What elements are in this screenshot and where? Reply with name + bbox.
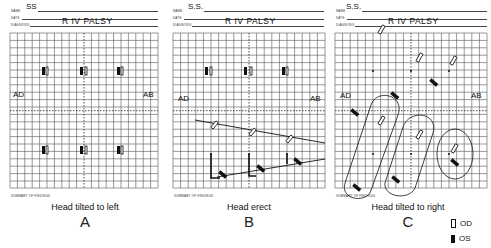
patient-name: S.S. bbox=[188, 2, 203, 11]
ab-label: AB bbox=[310, 94, 321, 103]
diagnosis-label: DIAGNOSIS bbox=[173, 23, 191, 27]
diagnosis-value: R IV PALSY bbox=[225, 16, 276, 26]
panel-c: NAME S.S. DATE DIAGNOSIS R IV PALSY bbox=[325, 0, 491, 248]
ad-label: AD bbox=[340, 91, 351, 100]
os-marks-b bbox=[218, 157, 302, 178]
panel-letter-a: A bbox=[10, 213, 160, 230]
marks-upper-b bbox=[205, 67, 288, 75]
panel-a: NAME SS DATE DIAGNOSIS R IV PALSY AD bbox=[0, 0, 165, 248]
patient-name: S.S. bbox=[346, 2, 361, 11]
legend-od-label: OD bbox=[460, 219, 472, 228]
diagnosis-label: DIAGNOSIS bbox=[336, 23, 354, 27]
diagnosis-line bbox=[355, 26, 487, 27]
od-swatch-icon bbox=[451, 219, 456, 228]
hess-grid-a bbox=[10, 33, 160, 189]
summary-label: SUMMARY OF FINDINGS bbox=[174, 194, 213, 198]
os-swatch-icon bbox=[451, 235, 455, 243]
od-marks-b bbox=[211, 121, 293, 143]
name-label: NAME bbox=[11, 9, 20, 13]
od-marks-c bbox=[378, 25, 458, 153]
ad-label: AD bbox=[178, 94, 189, 103]
date-label: DATE bbox=[11, 16, 20, 20]
caption-a: Head tilted to left bbox=[10, 202, 160, 212]
name-label: NAME bbox=[173, 9, 182, 13]
legend-od: OD bbox=[451, 219, 472, 228]
hess-grid-c bbox=[335, 33, 491, 189]
name-line bbox=[204, 11, 324, 12]
diagnosis-value: R IV PALSY bbox=[62, 16, 113, 26]
caption-c: Head tilted to right bbox=[333, 202, 483, 212]
caption-b: Head erect bbox=[174, 202, 324, 212]
name-line bbox=[362, 11, 487, 12]
legend-os: OS bbox=[451, 234, 471, 243]
diagnosis-label: DIAGNOSIS bbox=[11, 23, 29, 27]
summary-label: SUMMARY OF FINDINGS bbox=[336, 194, 375, 198]
diagnosis-line bbox=[30, 26, 158, 27]
date-label: DATE bbox=[336, 16, 345, 20]
date-label: DATE bbox=[173, 16, 182, 20]
panel-letter-b: B bbox=[174, 213, 324, 230]
ab-label: AB bbox=[471, 91, 482, 100]
ab-label: AB bbox=[143, 90, 154, 99]
patient-name: SS bbox=[26, 2, 37, 11]
legend-os-label: OS bbox=[459, 234, 471, 243]
hess-grid-b bbox=[173, 33, 329, 189]
name-label: NAME bbox=[336, 9, 345, 13]
summary-label: SUMMARY OF FINDINGS bbox=[11, 194, 50, 198]
diagnosis-line bbox=[192, 26, 324, 27]
panel-b: NAME S.S. DATE DIAGNOSIS R IV PALSY bbox=[162, 0, 330, 248]
diagnosis-value: R IV PALSY bbox=[388, 16, 439, 26]
name-line bbox=[38, 11, 158, 12]
ad-label: AD bbox=[13, 90, 24, 99]
